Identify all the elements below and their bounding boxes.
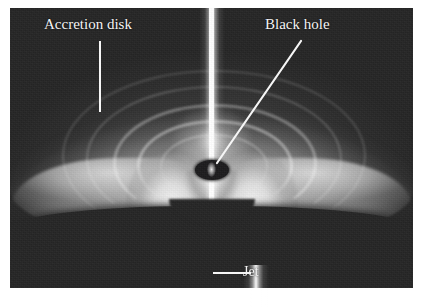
- image-plate: [10, 8, 413, 288]
- black-hole-inner-glow: [207, 162, 216, 177]
- figure-container: Accretion disk Black hole Jet: [0, 0, 425, 307]
- black-hole-torus: [195, 160, 229, 180]
